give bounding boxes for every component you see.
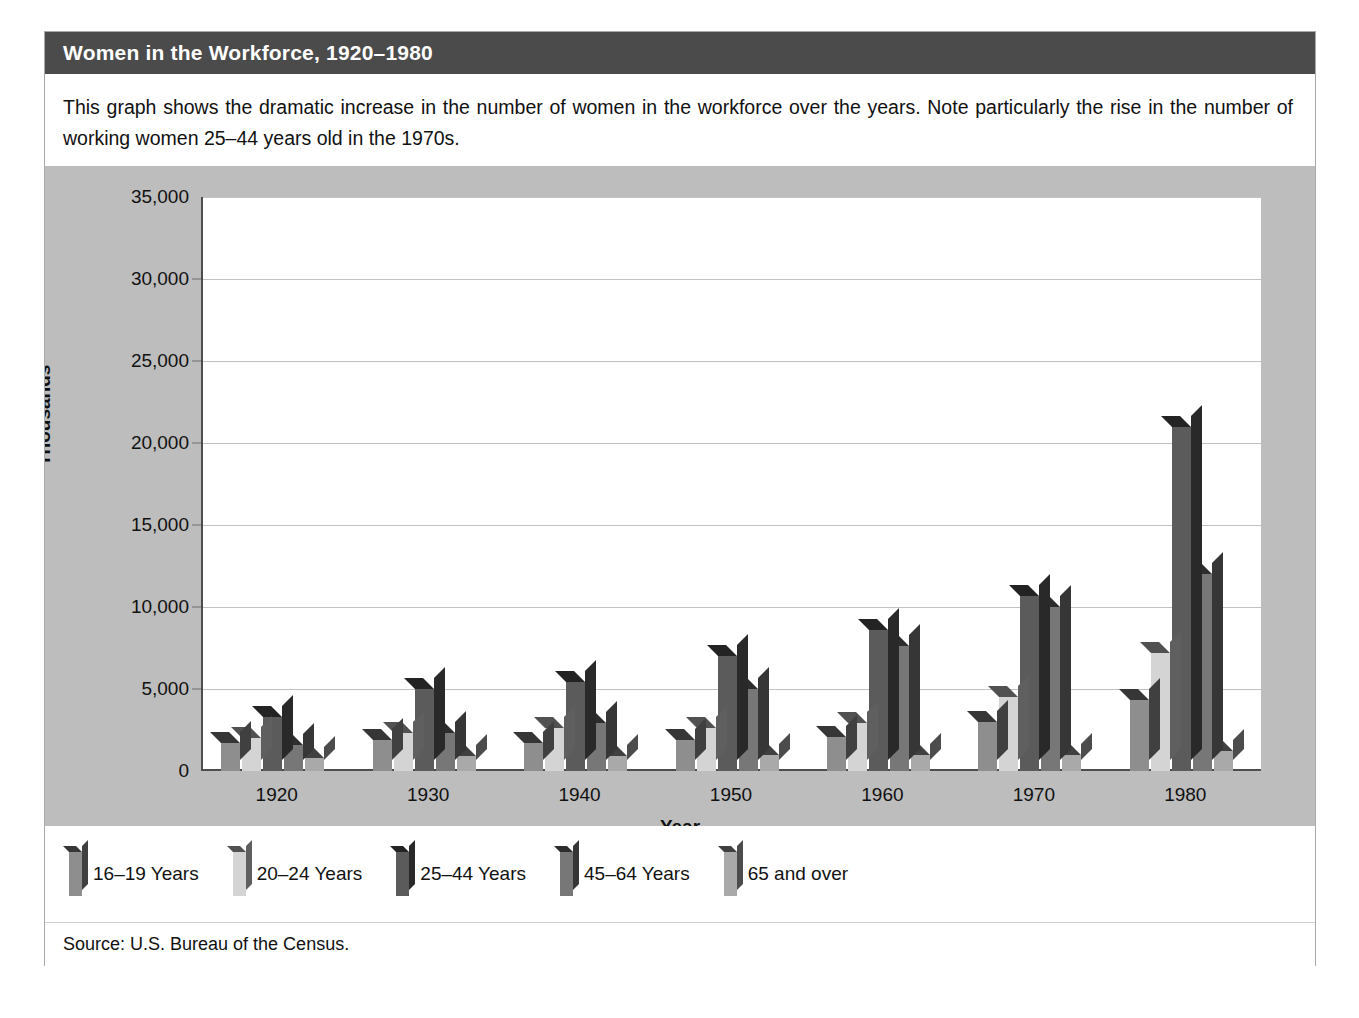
bar-front-face [524,743,543,771]
gridline [203,279,1261,280]
legend-swatch-side [409,840,415,890]
bar-side-face [1212,552,1223,760]
bar-side-face [758,667,769,760]
legend-item-2[interactable]: 20–24 Years [233,852,363,896]
legend-swatch-face [560,852,573,896]
bar-side-face [324,736,335,760]
figure-title-bar: Women in the Workforce, 1920–1980 [45,32,1315,74]
legend-items: 16–19 Years20–24 Years25–44 Years45–64 Y… [69,852,882,896]
bar-top-face [513,732,543,743]
bar-top-face [1009,585,1039,596]
legend-item-1[interactable]: 16–19 Years [69,852,199,896]
bar-side-face [930,733,941,760]
y-tick-label: 0 [59,760,189,782]
y-tick-label: 30,000 [59,268,189,290]
bar-side-face [627,734,638,760]
bar-1980-1 [1130,700,1149,771]
bar-top-face [988,686,1018,697]
bar-top-face [967,711,997,722]
x-tick-label-1930: 1930 [358,784,498,806]
legend-label: 65 and over [748,863,848,885]
y-tick-label: 5,000 [59,678,189,700]
y-axis-title: Thousands [45,365,55,466]
x-tick-label-1970: 1970 [964,784,1104,806]
bar-side-face [1060,585,1071,760]
legend-item-5[interactable]: 65 and over [724,852,848,896]
bar-top-face [210,732,240,743]
bar-side-face [1191,405,1202,760]
bar-front-face [221,743,240,771]
bar-front-face [827,737,846,771]
bar-top-face [555,671,585,682]
legend-swatch-icon [396,852,409,896]
y-tick-label: 25,000 [59,350,189,372]
bar-1960-1 [827,737,846,771]
legend-swatch-icon [724,852,737,896]
source-row: Source: U.S. Bureau of the Census. [45,922,1315,966]
bar-side-face [1039,574,1050,760]
bar-front-face [373,740,392,771]
legend-swatch-side [573,840,579,890]
legend-swatch-side [246,840,252,890]
gridline [203,361,1261,362]
bar-1970-5 [1062,755,1081,771]
legend-swatch-face [233,852,246,896]
legend-label: 45–64 Years [584,863,690,885]
figure-caption: This graph shows the dramatic increase i… [45,74,1315,166]
bar-1920-1 [221,743,240,771]
bar-front-face [1062,755,1081,771]
plot-area [201,197,1261,771]
x-tick-label-1940: 1940 [510,784,650,806]
legend-swatch-icon [233,852,246,896]
legend-label: 20–24 Years [257,863,363,885]
x-tick-label-1980: 1980 [1115,784,1255,806]
y-tick-label: 15,000 [59,514,189,536]
bar-top-face [252,706,282,717]
figure-title: Women in the Workforce, 1920–1980 [63,41,433,65]
y-tick-mark [192,279,201,280]
bar-front-face [760,755,779,771]
bar-top-face [707,645,737,656]
legend-label: 25–44 Years [420,863,526,885]
gridline [203,443,1261,444]
bar-side-face [476,734,487,760]
y-tick-mark [192,689,201,690]
page-root: Women in the Workforce, 1920–1980 This g… [0,0,1359,1018]
bar-1940-1 [524,743,543,771]
bar-top-face [404,678,434,689]
bar-1960-5 [911,755,930,771]
bar-front-face [305,758,324,771]
legend-item-3[interactable]: 25–44 Years [396,852,526,896]
bar-1930-1 [373,740,392,771]
bar-side-face [737,634,748,760]
bar-front-face [978,722,997,771]
legend-swatch-side [737,840,743,890]
bar-side-face [434,667,445,760]
bar-1950-5 [760,755,779,771]
bar-side-face [1233,729,1244,760]
y-tick-mark [192,607,201,608]
bar-side-face [909,624,920,760]
y-tick-label: 35,000 [59,186,189,208]
legend-swatch-face [724,852,737,896]
bar-top-face [362,729,392,740]
bar-front-face [911,755,930,771]
legend-label: 16–19 Years [93,863,199,885]
legend-swatch-face [69,852,82,896]
source-text: Source: U.S. Bureau of the Census. [63,934,349,955]
legend-swatch-side [82,840,88,890]
chart-panel: Thousands 05,00010,00015,00020,00025,000… [45,166,1315,826]
bar-top-face [665,729,695,740]
legend-item-4[interactable]: 45–64 Years [560,852,690,896]
bar-front-face [608,756,627,771]
bar-1920-5 [305,758,324,771]
bar-1930-5 [457,756,476,771]
bar-top-face [1140,642,1170,653]
bar-side-face [1081,733,1092,760]
bar-side-face [1170,631,1181,760]
caption-text: This graph shows the dramatic increase i… [63,92,1293,154]
bar-top-face [1161,416,1191,427]
bar-top-face [816,726,846,737]
y-tick-mark [192,361,201,362]
legend-swatch-icon [560,852,573,896]
